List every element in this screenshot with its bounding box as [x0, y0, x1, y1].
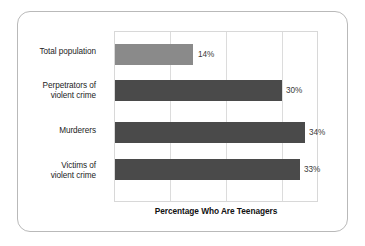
horizontal-bar-chart: Total population Perpetrators of violent…	[0, 0, 365, 246]
x-axis-title: Percentage Who Are Teenagers	[114, 206, 318, 216]
bar-value-total-population: 14%	[198, 44, 214, 65]
bar-value-murderers: 34%	[309, 122, 325, 143]
category-label-perpetrators-line2: violent crime	[10, 91, 96, 101]
bar-murderers	[115, 122, 305, 143]
bar-perpetrators	[115, 80, 282, 101]
category-label-murderers: Murderers	[10, 126, 96, 136]
bar-victims	[115, 159, 300, 180]
category-label-victims-line2: violent crime	[10, 171, 96, 181]
bar-total-population	[115, 44, 193, 65]
category-label-victims-line1: Victims of	[10, 161, 96, 171]
bar-value-victims: 33%	[304, 159, 320, 180]
category-label-total-population: Total population	[10, 47, 96, 57]
category-label-perpetrators-line1: Perpetrators of	[10, 81, 96, 91]
bar-value-perpetrators: 30%	[286, 80, 302, 101]
